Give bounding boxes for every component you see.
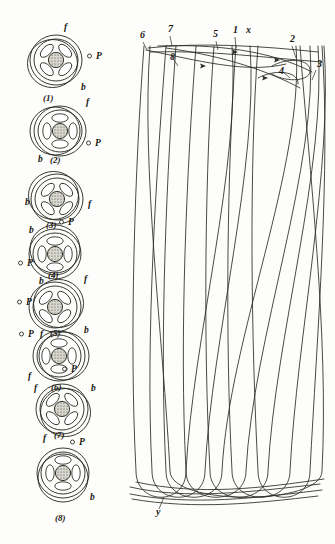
braid-strand [252, 46, 325, 497]
braid-top-label: 5 [213, 28, 218, 39]
cell-label-b: b [38, 154, 43, 164]
cell-lobe [52, 114, 68, 122]
cell-label-b: b [84, 325, 89, 335]
cell-p-marker-dot [88, 54, 92, 58]
cell-label-p: P [95, 138, 101, 148]
braid-arrowhead [200, 63, 206, 68]
braid-strand [206, 46, 319, 497]
braid-strand [150, 46, 251, 497]
cell-label-b: b [81, 82, 86, 92]
cell-lobe [46, 465, 54, 481]
cell-diagram-1: fbP(1) [27, 22, 102, 103]
cell-number-label: (8) [55, 513, 66, 523]
cell-diagram-8: fbP(8) [37, 433, 95, 523]
cell-nucleus [48, 52, 63, 67]
cell-lobe [43, 123, 51, 139]
cell-p-marker-dot [19, 261, 23, 265]
braid-bottom-sweep [136, 479, 324, 490]
braid-strand [148, 46, 324, 497]
cell-label-b: b [39, 276, 44, 286]
label-leader-line [312, 70, 316, 80]
cell-label-p: P [79, 437, 85, 447]
cell-nucleus [54, 401, 69, 416]
cell-lobe [64, 246, 72, 262]
cell-lobe [38, 246, 46, 262]
cell-lobe [51, 339, 67, 347]
cell-nucleus [55, 465, 70, 480]
braid-top-label: 4 [278, 65, 284, 76]
cell-lobe [72, 465, 80, 481]
braid-top-label: 1 [233, 24, 238, 35]
cell-lobe [42, 348, 50, 364]
cell-nucleus [51, 348, 66, 363]
cell-label-f: f [86, 97, 90, 107]
cell-label-f: f [84, 274, 88, 284]
cell-label-p: P [96, 51, 102, 61]
cell-nucleus [52, 123, 67, 138]
label-leader-line [292, 46, 296, 58]
braid-strand [228, 46, 326, 497]
braid-strand [183, 46, 311, 497]
braid-top-label: 3 [316, 58, 322, 69]
cell-lobe [69, 123, 77, 139]
cell-label-b: b [90, 492, 95, 502]
cell-p-marker-dot [18, 300, 22, 304]
cell-label-f: f [28, 371, 32, 381]
cell-p-marker-dot [87, 141, 91, 145]
cell-diagram-4: fbP(4) [19, 225, 89, 284]
cell-lobe [68, 348, 76, 364]
cell-column: fbP(1)fbP(2)fbP(3)fbP(4)fbP(5)fbP(6)fbP(… [18, 22, 103, 523]
cell-label-p: P [26, 297, 32, 307]
cell-label-f: f [34, 383, 38, 393]
braid-top-sweep [146, 50, 286, 67]
cell-diagram-6: fbP(6) [20, 325, 90, 392]
cell-label-b: b [25, 197, 30, 207]
cell-nucleus [47, 246, 62, 261]
braid-top-label: 7 [168, 23, 174, 34]
cell-number-label: (7) [54, 430, 65, 440]
cell-number-label: (4) [48, 270, 59, 280]
braid-arrowhead [232, 49, 238, 54]
braid-diagram [130, 45, 325, 505]
cell-lobe [55, 482, 71, 490]
cell-diagram-3: fbP(3) [25, 171, 92, 230]
braid-top-label: 2 [289, 33, 295, 44]
braid-top-label: 6 [140, 29, 145, 40]
cell-nucleus [47, 299, 62, 314]
cell-nucleus [49, 191, 64, 206]
label-leader-line [170, 36, 172, 46]
braid-bottom-label: y [155, 506, 161, 517]
cell-label-p: P [71, 364, 77, 374]
figure-artwork: fbP(1)fbP(2)fbP(3)fbP(4)fbP(5)fbP(6)fbP(… [0, 0, 335, 544]
braid-upper-right-loop [272, 60, 310, 79]
plate-figure: fbP(1)fbP(2)fbP(3)fbP(4)fbP(5)fbP(6)fbP(… [0, 0, 335, 544]
cell-number-label: (1) [43, 93, 54, 103]
cell-lobe [47, 237, 63, 245]
label-leader-line [235, 37, 236, 48]
braid-arrowhead [262, 75, 268, 80]
cell-label-b: b [29, 225, 34, 235]
cell-label-b: b [91, 383, 96, 393]
cell-p-marker-dot [60, 220, 64, 224]
braid-top-label: x [245, 24, 251, 35]
cell-label-p: P [68, 217, 74, 227]
cell-diagram-2: fbP(2) [30, 97, 101, 165]
braid-top-label: 8 [170, 51, 175, 62]
cell-label-f: f [64, 22, 68, 32]
cell-label-p: P [28, 329, 34, 339]
cell-label-f: f [43, 433, 47, 443]
cell-label-p: P [27, 258, 33, 268]
cell-lobe [52, 140, 68, 148]
cell-number-label: (2) [50, 155, 61, 165]
cell-p-marker-dot [63, 367, 67, 371]
cell-p-marker-dot [20, 332, 24, 336]
cell-p-marker-dot [71, 440, 75, 444]
cell-lobe [55, 456, 71, 464]
cell-label-f: f [88, 199, 92, 209]
